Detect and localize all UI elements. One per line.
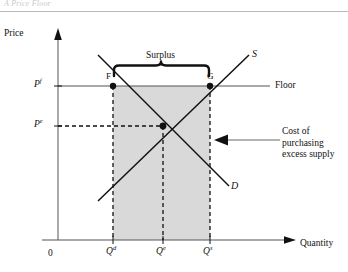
- y-axis-title: Price: [4, 28, 24, 38]
- x-tick-label-qd: Qd: [106, 246, 116, 256]
- point-f-label: F: [106, 71, 111, 81]
- demand-curve-label: D: [231, 180, 238, 191]
- surplus-brace: [114, 62, 209, 77]
- point-g-marker: [207, 83, 213, 89]
- x-axis-title: Quantity: [300, 238, 333, 248]
- point-f-marker: [110, 83, 116, 89]
- y-tick-label-pf: Pf: [34, 79, 42, 89]
- surplus-label: Surplus: [146, 50, 175, 60]
- cost-shaded-region: [113, 86, 210, 240]
- y-tick-label-pe: Pe: [34, 119, 43, 129]
- x-tick-label-qe: Qe: [156, 246, 166, 256]
- x-tick-label-qs: Qs: [203, 246, 212, 256]
- point-g-label: G: [207, 71, 214, 81]
- cost-annotation-line2: purchasing: [282, 138, 348, 150]
- cost-annotation-line3: excess supply: [282, 149, 348, 161]
- floor-line-label: Floor: [275, 80, 296, 90]
- cost-annotation-line1: Cost of: [282, 126, 348, 138]
- origin-label: 0: [48, 248, 53, 258]
- annotation-arrowhead: [214, 135, 228, 146]
- supply-curve-label: S: [252, 48, 257, 59]
- cost-annotation: Cost of purchasing excess supply: [282, 126, 348, 161]
- x-axis-arrow: [284, 236, 296, 244]
- y-axis-arrow: [54, 28, 62, 40]
- price-floor-figure: A Price Floor: [0, 0, 348, 272]
- equilibrium-point-marker: [160, 123, 167, 130]
